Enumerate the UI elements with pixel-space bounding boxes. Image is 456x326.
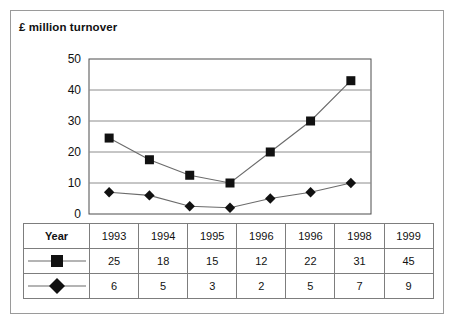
- y-tick-label: 20: [68, 145, 82, 159]
- y-tick-label: 30: [68, 114, 82, 128]
- plot-frame: [89, 59, 371, 214]
- square-series-point: [185, 171, 194, 180]
- data-table: Year 1993 1994 1995 1996 1996 1998 1999: [23, 223, 434, 299]
- chart-title: £ million turnover: [19, 21, 117, 33]
- square-series-point: [145, 155, 154, 164]
- table-header-year-cell: 1994: [139, 224, 188, 249]
- square-series-point: [105, 134, 114, 143]
- table-cell: 5: [286, 274, 335, 299]
- table-cell: 18: [139, 249, 188, 274]
- table-cell: 6: [90, 274, 139, 299]
- figure-container: £ million turnover 50 40 30 20 10 0: [10, 10, 444, 314]
- line-chart-svg: 50 40 30 20 10 0: [11, 39, 445, 224]
- table-cell: 22: [286, 249, 335, 274]
- table-cell: 12: [237, 249, 286, 274]
- table-header-year-cell: 1993: [90, 224, 139, 249]
- table-cell: 3: [188, 274, 237, 299]
- table-header-year-cell: 1995: [188, 224, 237, 249]
- square-series-point: [346, 76, 355, 85]
- square-series-point: [306, 117, 315, 126]
- data-table-container: Year 1993 1994 1995 1996 1996 1998 1999: [23, 223, 433, 299]
- table-header-year-cell: 1996: [237, 224, 286, 249]
- table-header-row: Year 1993 1994 1995 1996 1996 1998 1999: [24, 224, 434, 249]
- plot-region: 50 40 30 20 10 0: [11, 39, 445, 224]
- table-row: 25 18 15 12 22 31 45: [24, 249, 434, 274]
- legend-square-cell: [24, 249, 90, 274]
- table-cell: 7: [335, 274, 384, 299]
- table-cell: 15: [188, 249, 237, 274]
- y-tick-label: 50: [68, 52, 82, 66]
- table-cell: 9: [384, 274, 433, 299]
- y-axis-tick-labels: 50 40 30 20 10 0: [68, 52, 82, 221]
- square-series-point: [226, 179, 235, 188]
- table-cell: 45: [384, 249, 433, 274]
- table-cell: 2: [237, 274, 286, 299]
- square-marker-icon: [24, 249, 89, 273]
- table-cell: 31: [335, 249, 384, 274]
- table-cell: 25: [90, 249, 139, 274]
- table-header-year-cell: 1999: [384, 224, 433, 249]
- table-header-year: Year: [24, 224, 90, 249]
- diamond-marker-icon: [24, 274, 89, 298]
- legend-diamond-cell: [24, 274, 90, 299]
- table-header-year-cell: 1998: [335, 224, 384, 249]
- y-tick-label: 0: [74, 207, 81, 221]
- y-tick-label: 40: [68, 83, 82, 97]
- y-tick-label: 10: [68, 176, 82, 190]
- square-series-point: [266, 148, 275, 157]
- table-header-year-cell: 1996: [286, 224, 335, 249]
- table-cell: 5: [139, 274, 188, 299]
- table-row: 6 5 3 2 5 7 9: [24, 274, 434, 299]
